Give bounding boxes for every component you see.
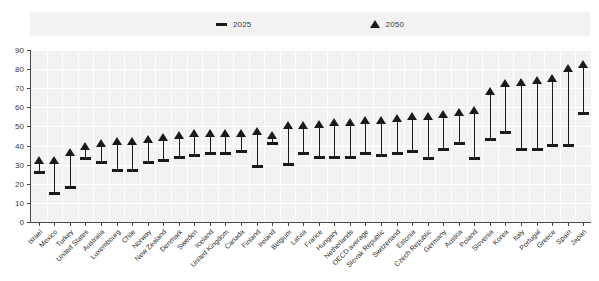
dash-marker-icon bbox=[127, 169, 138, 172]
connector-stem bbox=[583, 65, 584, 113]
connector-stem bbox=[117, 142, 118, 171]
y-axis-label: 30 bbox=[2, 160, 24, 169]
gridline-vertical bbox=[264, 50, 265, 222]
connector-stem bbox=[70, 153, 71, 187]
dash-marker-icon bbox=[329, 156, 340, 159]
y-axis-tick bbox=[27, 222, 31, 223]
x-axis-tick bbox=[319, 222, 320, 226]
gridline-vertical bbox=[62, 50, 63, 222]
triangle-marker-icon bbox=[469, 106, 479, 114]
gridline-vertical bbox=[93, 50, 94, 222]
x-axis-tick bbox=[210, 222, 211, 226]
gridline-vertical bbox=[498, 50, 499, 222]
chart-legend: 2025 2050 bbox=[30, 12, 590, 36]
gridline-vertical bbox=[249, 50, 250, 222]
connector-stem bbox=[350, 123, 351, 157]
dash-marker-icon bbox=[252, 165, 263, 168]
dash-marker-icon bbox=[220, 152, 231, 155]
connector-stem bbox=[537, 81, 538, 150]
triangle-marker-icon bbox=[370, 20, 380, 28]
connector-stem bbox=[381, 121, 382, 155]
triangle-marker-icon bbox=[220, 129, 230, 137]
gridline-vertical bbox=[218, 50, 219, 222]
dash-marker-icon bbox=[298, 152, 309, 155]
gridline-vertical bbox=[140, 50, 141, 222]
x-axis-tick bbox=[443, 222, 444, 226]
y-axis-tick bbox=[27, 126, 31, 127]
gridline-vertical bbox=[389, 50, 390, 222]
y-axis-tick bbox=[27, 165, 31, 166]
triangle-marker-icon bbox=[454, 108, 464, 116]
triangle-marker-icon bbox=[34, 156, 44, 164]
y-axis-tick bbox=[27, 69, 31, 70]
gridline-vertical bbox=[575, 50, 576, 222]
dash-marker-icon bbox=[143, 161, 154, 164]
triangle-marker-icon bbox=[143, 135, 153, 143]
triangle-marker-icon bbox=[547, 74, 557, 82]
triangle-marker-icon bbox=[438, 110, 448, 118]
dash-marker-icon bbox=[532, 148, 543, 151]
triangle-marker-icon bbox=[345, 118, 355, 126]
y-axis-tick bbox=[27, 107, 31, 108]
connector-stem bbox=[365, 121, 366, 153]
gridline-vertical bbox=[155, 50, 156, 222]
x-axis-tick bbox=[459, 222, 460, 226]
gridline-vertical bbox=[420, 50, 421, 222]
x-axis-tick bbox=[179, 222, 180, 226]
gridline-vertical bbox=[513, 50, 514, 222]
dash-marker-icon bbox=[34, 171, 45, 174]
x-axis-tick bbox=[194, 222, 195, 226]
dash-marker-icon bbox=[438, 148, 449, 151]
x-axis-tick bbox=[101, 222, 102, 226]
y-axis-label: 80 bbox=[2, 65, 24, 74]
triangle-marker-icon bbox=[516, 78, 526, 86]
dash-marker-icon bbox=[174, 156, 185, 159]
dash-marker-icon bbox=[345, 156, 356, 159]
y-axis-tick bbox=[27, 146, 31, 147]
dash-marker-icon bbox=[360, 152, 371, 155]
dash-marker-icon bbox=[80, 157, 91, 160]
legend-label-2025: 2025 bbox=[233, 20, 252, 29]
gridline-vertical bbox=[171, 50, 172, 222]
connector-stem bbox=[397, 119, 398, 153]
triangle-marker-icon bbox=[532, 76, 542, 84]
gridline-vertical bbox=[187, 50, 188, 222]
x-axis-tick bbox=[568, 222, 569, 226]
x-axis-tick bbox=[163, 222, 164, 226]
triangle-marker-icon bbox=[96, 139, 106, 147]
x-axis-tick bbox=[257, 222, 258, 226]
y-axis-tick bbox=[27, 203, 31, 204]
triangle-marker-icon bbox=[127, 137, 137, 145]
dash-marker-icon bbox=[516, 148, 527, 151]
gridline-vertical bbox=[544, 50, 545, 222]
chart-container: 2025 2050 0102030405060708090IsraelMexic… bbox=[0, 0, 599, 281]
x-axis-tick bbox=[490, 222, 491, 226]
connector-stem bbox=[257, 132, 258, 166]
y-axis-tick bbox=[27, 184, 31, 185]
connector-stem bbox=[334, 123, 335, 157]
x-axis-tick bbox=[241, 222, 242, 226]
gridline-vertical bbox=[295, 50, 296, 222]
x-axis-tick bbox=[350, 222, 351, 226]
triangle-marker-icon bbox=[49, 156, 59, 164]
connector-stem bbox=[505, 84, 506, 132]
triangle-marker-icon bbox=[65, 148, 75, 156]
gridline-vertical bbox=[342, 50, 343, 222]
y-axis-tick bbox=[27, 50, 31, 51]
triangle-marker-icon bbox=[563, 64, 573, 72]
connector-stem bbox=[412, 117, 413, 151]
x-axis-tick bbox=[583, 222, 584, 226]
triangle-marker-icon bbox=[205, 129, 215, 137]
connector-stem bbox=[428, 117, 429, 159]
y-axis-label: 70 bbox=[2, 84, 24, 93]
gridline-vertical bbox=[451, 50, 452, 222]
dash-marker-icon bbox=[578, 112, 589, 115]
plot-area bbox=[30, 50, 591, 223]
x-axis-tick bbox=[288, 222, 289, 226]
dash-marker-icon bbox=[469, 157, 480, 160]
dash-marker-icon bbox=[376, 154, 387, 157]
gridline-vertical bbox=[109, 50, 110, 222]
legend-entry-2025: 2025 bbox=[216, 20, 252, 29]
x-axis-tick bbox=[132, 222, 133, 226]
gridline-vertical bbox=[529, 50, 530, 222]
